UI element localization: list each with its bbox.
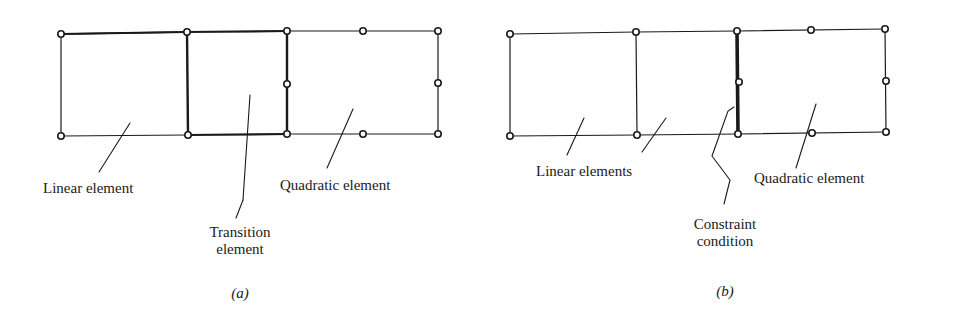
figure-a-nodes (58, 28, 441, 139)
label-constraint-condition: Constraint condition (673, 216, 777, 250)
caption-a: (a) (220, 285, 260, 302)
label-constraint-line1: Constraint (673, 216, 777, 233)
label-quadratic-element-b: Quadratic element (754, 170, 864, 187)
diagram-canvas (0, 0, 967, 322)
label-linear-element: Linear element (43, 180, 133, 197)
label-transition-line2: element (190, 241, 290, 258)
label-transition-element: Transition element (190, 224, 290, 258)
label-transition-line1: Transition (190, 224, 290, 241)
label-linear-elements: Linear elements (536, 163, 632, 180)
label-constraint-line2: condition (673, 233, 777, 250)
label-quadratic-element-a: Quadratic element (280, 177, 390, 194)
figure-b-nodes (507, 26, 889, 139)
caption-b: (b) (705, 283, 745, 300)
